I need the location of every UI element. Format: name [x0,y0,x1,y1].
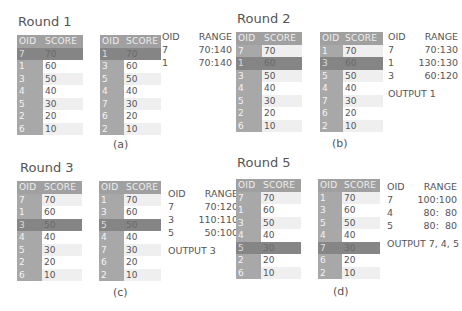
score-cell: 70 [262,45,302,58]
output-label: OUTPUT 1 [388,88,458,99]
range-block: OIDRANGE770:1301130:130360:120OUTPUT 1 [388,30,458,99]
range-oid: 3 [388,69,412,82]
table-row: 220 [236,254,301,267]
table-row: 160 [17,60,83,73]
score-header: SCORE [343,32,383,45]
oid-cell: 5 [17,244,42,257]
score-cell: 10 [261,267,301,280]
oid-cell: 7 [17,194,42,207]
table-row: 220 [17,110,83,123]
oid-cell: 4 [318,229,342,242]
table-header-row: OIDSCORE [320,32,383,45]
panel-title: Round 3 [20,160,74,175]
range-row: 770:140 [162,43,232,56]
oid-header: OID [320,32,343,45]
range-oid-header: OID [388,30,412,43]
table-row: 220 [236,107,302,120]
score-cell: 60 [261,204,301,217]
oid-cell: 1 [17,206,42,219]
oid-header: OID [100,35,124,48]
range-range-header: RANGE [411,180,457,193]
score-cell: 70 [342,192,380,205]
range-value: 110:110 [192,213,238,226]
panel-caption: (c) [113,286,128,299]
highlighted-row: 350 [17,219,82,232]
left-table: OIDSCORE770160350440530220610 [17,35,83,135]
table-row: 170 [99,194,161,207]
panel-title: Round 5 [237,155,291,170]
range-range-header: RANGE [186,30,232,43]
oid-cell: 7 [99,244,124,257]
oid-cell: 2 [100,123,124,136]
oid-cell: 7 [318,242,342,255]
oid-cell: 1 [99,194,124,207]
table-row: 730 [320,95,383,108]
table-row: 530 [17,244,82,257]
table-row: 350 [236,217,301,230]
score-header: SCORE [42,181,82,194]
score-cell: 10 [262,120,302,133]
oid-cell: 5 [320,70,343,83]
range-header: OIDRANGE [387,180,459,193]
oid-cell: 1 [320,45,343,58]
range-block: OIDRANGE770:1203110:110550:100OUTPUT 3 [168,187,238,256]
score-cell: 40 [124,85,161,98]
score-cell: 50 [124,219,161,232]
table-row: 440 [17,85,83,98]
range-value: 70:130 [412,43,458,56]
range-value: 100:100 [411,193,457,206]
score-cell: 50 [43,73,83,86]
oid-cell: 4 [320,82,343,95]
range-oid: 7 [162,43,186,56]
panel-caption: (a) [113,138,128,151]
oid-cell: 3 [318,204,342,217]
score-cell: 10 [342,267,380,280]
highlighted-row: 730 [318,242,380,255]
range-value: 70:140 [186,56,232,69]
table-row: 620 [318,254,380,267]
range-oid: 5 [168,226,192,239]
score-cell: 70 [343,45,383,58]
output-label: OUTPUT 7, 4, 5 [387,238,459,249]
score-header: SCORE [261,179,301,192]
panel-title: Round 2 [237,11,291,26]
oid-cell: 4 [99,231,124,244]
oid-cell: 3 [99,206,124,219]
score-cell: 60 [43,60,83,73]
score-cell: 20 [261,254,301,267]
score-cell: 30 [343,95,383,108]
table-row: 210 [320,120,383,133]
score-cell: 60 [342,204,380,217]
score-cell: 60 [124,60,161,73]
score-cell: 40 [42,231,82,244]
score-cell: 10 [42,269,82,282]
score-cell: 70 [261,192,301,205]
range-block: OIDRANGE770:140170:140 [162,30,232,69]
score-cell: 50 [42,219,82,232]
range-oid-header: OID [387,180,411,193]
score-cell: 30 [124,244,161,257]
score-cell: 10 [43,123,83,136]
range-value: 60:120 [412,69,458,82]
oid-cell: 7 [320,95,343,108]
oid-cell: 3 [17,73,43,86]
oid-cell: 3 [236,70,262,83]
score-cell: 30 [124,98,161,111]
table-row: 730 [99,244,161,257]
oid-header: OID [318,179,342,192]
oid-header: OID [236,32,262,45]
oid-cell: 6 [236,120,262,133]
range-oid: 4 [387,206,411,219]
left-table: OIDSCORE770160350440530220610 [236,32,302,132]
oid-cell: 1 [318,192,342,205]
score-cell: 40 [261,229,301,242]
table-row: 610 [236,120,302,133]
table-row: 550 [100,73,161,86]
range-block: OIDRANGE7100:100480: 80580: 80OUTPUT 7, … [387,180,459,249]
oid-cell: 5 [318,217,342,230]
oid-cell: 2 [236,107,262,120]
oid-cell: 4 [236,229,261,242]
table-row: 170 [320,45,383,58]
oid-cell: 6 [320,107,343,120]
score-cell: 40 [342,229,380,242]
